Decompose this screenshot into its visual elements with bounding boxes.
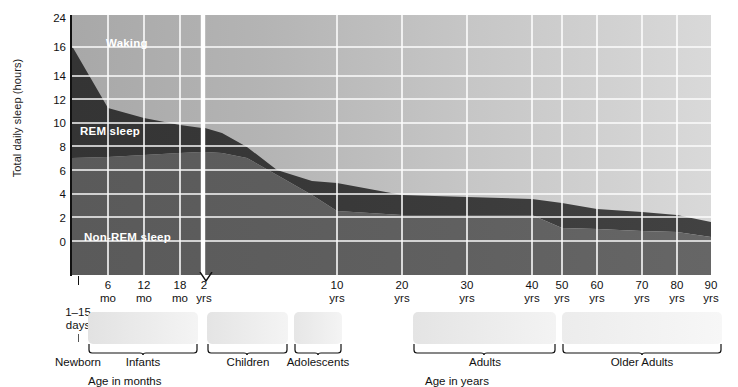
group-label-infants: Infants bbox=[113, 356, 173, 368]
y-tick-10: 10 bbox=[36, 118, 66, 128]
bracket-children bbox=[207, 344, 288, 355]
band-children bbox=[207, 312, 288, 344]
y-tick-8: 8 bbox=[36, 142, 66, 152]
newborn-tick-mark bbox=[78, 276, 79, 285]
group-label-older-adults: Older Adults bbox=[592, 356, 692, 368]
x-tick-10yrs: 10yrs bbox=[310, 279, 364, 304]
rem-region-label: REM sleep bbox=[80, 125, 140, 137]
bracket-infants bbox=[88, 344, 198, 355]
group-label-children: Children bbox=[213, 356, 283, 368]
x-tick-2yrs: 2yrs bbox=[177, 279, 231, 304]
y-tick-6: 6 bbox=[36, 166, 66, 176]
y-tick-12: 12 bbox=[36, 95, 66, 105]
y-tick-0: 0 bbox=[36, 237, 66, 247]
sleep-architecture-chart: Total daily sleep (hours) 24 16 14 12 10… bbox=[0, 0, 738, 387]
x-caption-years: Age in years bbox=[425, 375, 489, 387]
band-adults bbox=[413, 312, 556, 344]
age-group-brackets: Infants Newborn Children Adolescents Adu… bbox=[0, 312, 738, 387]
group-label-adults: Adults bbox=[455, 356, 515, 368]
plot-area: Waking REM sleep Non-REM sleep bbox=[72, 15, 711, 275]
y-tick-2: 2 bbox=[36, 213, 66, 223]
band-infants bbox=[88, 312, 198, 344]
bracket-older-adults bbox=[562, 344, 722, 355]
bracket-adolescents bbox=[294, 344, 342, 355]
waking-region-label: Waking bbox=[106, 37, 148, 49]
non-rem-region-label: Non-REM sleep bbox=[84, 231, 171, 243]
x-tick-90yrs: 90yrs bbox=[684, 279, 738, 304]
bracket-adults bbox=[413, 344, 556, 355]
y-axis-title: Total daily sleep (hours) bbox=[11, 0, 23, 238]
y-tick-14: 14 bbox=[36, 71, 66, 81]
y-tick-4: 4 bbox=[36, 189, 66, 199]
group-label-adolescents: Adolescents bbox=[281, 356, 355, 368]
x-axis-tick-labels: 6mo 12mo 18mo 2yrs 10yrs 20yrs 30yrs 40y… bbox=[0, 279, 738, 309]
y-tick-16: 16 bbox=[36, 42, 66, 52]
x-tick-30yrs: 30yrs bbox=[440, 279, 494, 304]
x-tick-20yrs: 20yrs bbox=[375, 279, 429, 304]
group-label-newborn: Newborn bbox=[38, 356, 118, 368]
x-caption-months: Age in months bbox=[88, 375, 162, 387]
band-adolescents bbox=[294, 312, 342, 344]
band-older-adults bbox=[562, 312, 722, 344]
y-tick-24: 24 bbox=[36, 13, 66, 23]
